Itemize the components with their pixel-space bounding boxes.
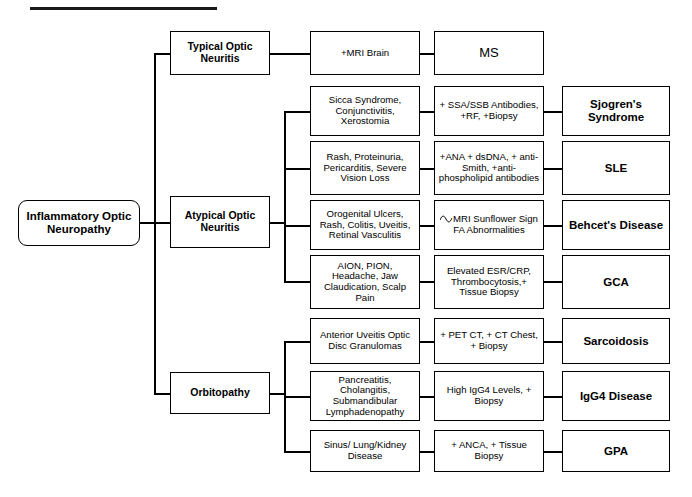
node-symptoms-gpa: Sinus/ Lung/Kidney Disease: [310, 430, 420, 472]
connector-root-out: [140, 222, 154, 224]
node-tests-sle-label: +ANA + dsDNA, + anti-Smith, +anti-phosph…: [438, 152, 540, 184]
node-diagnosis-sle: SLE: [562, 141, 670, 195]
connector-orbitopathy-row2: [284, 396, 310, 398]
node-diagnosis-igg4-label: IgG4 Disease: [566, 390, 666, 403]
connector-behcet-sym-test: [420, 225, 434, 227]
node-symptoms-behcet-label: Orogenital Ulcers, Rash, Colitis, Uveiti…: [314, 209, 416, 241]
node-symptoms-sle: Rash, Proteinuria, Pericarditis, Severe …: [310, 141, 420, 195]
connector-igg4-sym-test: [420, 396, 434, 398]
connector-atypical-row4: [284, 281, 310, 283]
node-symptoms-sjogren-label: Sicca Syndrome, Conjunctivitis, Xerostom…: [314, 95, 416, 127]
node-diagnosis-igg4: IgG4 Disease: [562, 371, 670, 421]
node-typical-ms-label: MS: [438, 46, 540, 61]
node-diagnosis-gca-label: GCA: [566, 276, 666, 289]
connector-sarcoid-sym-test: [420, 341, 434, 343]
node-tests-igg4: High IgG4 Levels, + Biopsy: [434, 371, 544, 421]
node-tests-sarcoidosis: + PET CT, + CT Chest, + Biopsy: [434, 318, 544, 364]
node-tests-gpa: + ANCA, + Tissue Biopsy: [434, 430, 544, 472]
connector-gca-test-dx: [544, 281, 562, 283]
node-diagnosis-behcet-label: Behcet's Disease: [566, 219, 666, 232]
connector-atypical-row2: [284, 168, 310, 170]
node-diagnosis-sjogren: Sjogren's Syndrome: [562, 86, 670, 136]
connector-typical-out: [270, 53, 310, 55]
sunflower-sign-icon: [440, 214, 452, 223]
connector-orbitopathy-row1: [284, 341, 310, 343]
connector-orbitopathy-out: [270, 393, 284, 395]
node-diagnosis-sle-label: SLE: [566, 162, 666, 175]
node-root: Inflammatory Optic Neuropathy: [18, 200, 140, 246]
connector-spine-orbitopathy: [154, 393, 170, 395]
connector-sjogren-sym-test: [420, 111, 434, 113]
connector-behcet-test-dx: [544, 225, 562, 227]
node-branch-typical-label: Typical Optic Neuritis: [174, 41, 266, 65]
node-root-label: Inflammatory Optic Neuropathy: [22, 210, 136, 236]
connector-gca-sym-test: [420, 281, 434, 283]
node-diagnosis-gpa-label: GPA: [566, 445, 666, 458]
node-tests-behcet-label: MRI Sunflower Sign FA Abnormalities: [438, 214, 540, 235]
node-diagnosis-behcet: Behcet's Disease: [562, 200, 670, 250]
node-symptoms-sarcoidosis-label: Anterior Uveitis Optic Disc Granulomas: [314, 330, 416, 351]
connector-sjogren-test-dx: [544, 111, 562, 113]
node-branch-orbitopathy: Orbitopathy: [170, 372, 270, 414]
connector-igg4-test-dx: [544, 396, 562, 398]
node-tests-sjogren: + SSA/SSB Antibodies, +RF, +Biopsy: [434, 86, 544, 136]
connector-typical-mri-ms: [420, 53, 434, 55]
node-branch-atypical-label: Atypical Optic Neuritis: [174, 210, 266, 234]
connector-atypical-row3: [284, 225, 310, 227]
node-diagnosis-gpa: GPA: [562, 430, 670, 472]
node-typical-mri: +MRI Brain: [310, 31, 420, 75]
node-diagnosis-sarcoidosis-label: Sarcoidosis: [566, 335, 666, 348]
node-diagnosis-gca: GCA: [562, 255, 670, 309]
flowchart-canvas: Inflammatory Optic Neuropathy Typical Op…: [0, 0, 692, 497]
node-tests-gca: Elevated ESR/CRP, Thrombocytosis,+ Tissu…: [434, 255, 544, 309]
node-tests-sarcoidosis-label: + PET CT, + CT Chest, + Biopsy: [438, 330, 540, 351]
node-branch-typical: Typical Optic Neuritis: [170, 31, 270, 75]
node-symptoms-gca: AION, PION, Headache, Jaw Claudication, …: [310, 255, 420, 309]
connector-sle-sym-test: [420, 168, 434, 170]
node-typical-ms: MS: [434, 31, 544, 75]
node-symptoms-igg4: Pancreatitis, Cholangitis, Submandibular…: [310, 371, 420, 421]
node-symptoms-igg4-label: Pancreatitis, Cholangitis, Submandibular…: [314, 375, 416, 418]
node-diagnosis-sjogren-label: Sjogren's Syndrome: [566, 98, 666, 124]
node-symptoms-gpa-label: Sinus/ Lung/Kidney Disease: [314, 440, 416, 461]
connector-gpa-test-dx: [544, 451, 562, 453]
connector-gpa-sym-test: [420, 451, 434, 453]
node-tests-igg4-label: High IgG4 Levels, + Biopsy: [438, 385, 540, 406]
connector-sarcoid-test-dx: [544, 341, 562, 343]
connector-atypical-spine: [284, 111, 286, 281]
top-rule: [30, 7, 217, 10]
connector-sle-test-dx: [544, 168, 562, 170]
node-tests-sle: +ANA + dsDNA, + anti-Smith, +anti-phosph…: [434, 141, 544, 195]
node-symptoms-sle-label: Rash, Proteinuria, Pericarditis, Severe …: [314, 152, 416, 184]
node-symptoms-sjogren: Sicca Syndrome, Conjunctivitis, Xerostom…: [310, 86, 420, 136]
node-branch-atypical: Atypical Optic Neuritis: [170, 196, 270, 248]
connector-atypical-out: [270, 222, 284, 224]
node-symptoms-sarcoidosis: Anterior Uveitis Optic Disc Granulomas: [310, 318, 420, 364]
node-tests-gca-label: Elevated ESR/CRP, Thrombocytosis,+ Tissu…: [438, 266, 540, 298]
connector-orbitopathy-row3: [284, 451, 310, 453]
node-tests-gpa-label: + ANCA, + Tissue Biopsy: [438, 440, 540, 461]
connector-atypical-row1: [284, 111, 310, 113]
connector-spine-typical: [154, 53, 170, 55]
node-diagnosis-sarcoidosis: Sarcoidosis: [562, 318, 670, 364]
node-symptoms-behcet: Orogenital Ulcers, Rash, Colitis, Uveiti…: [310, 200, 420, 250]
node-tests-behcet-text: MRI Sunflower Sign FA Abnormalities: [453, 213, 538, 235]
node-typical-mri-label: +MRI Brain: [314, 48, 416, 59]
connector-spine-atypical: [154, 222, 170, 224]
node-tests-sjogren-label: + SSA/SSB Antibodies, +RF, +Biopsy: [438, 100, 540, 121]
node-tests-behcet: MRI Sunflower Sign FA Abnormalities: [434, 200, 544, 250]
node-branch-orbitopathy-label: Orbitopathy: [174, 387, 266, 399]
node-symptoms-gca-label: AION, PION, Headache, Jaw Claudication, …: [314, 261, 416, 304]
